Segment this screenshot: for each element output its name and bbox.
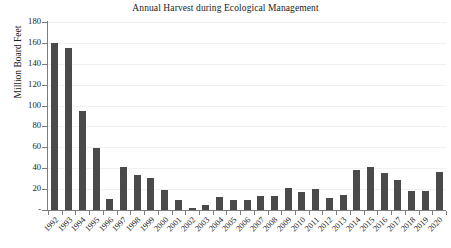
y-tick-mark xyxy=(42,126,48,127)
y-tick-mark xyxy=(42,85,48,86)
x-tick-mark xyxy=(432,211,433,215)
x-tick-mark xyxy=(322,211,323,215)
x-tick-mark xyxy=(446,211,447,215)
y-tick-mark xyxy=(42,43,48,44)
x-tick-mark xyxy=(268,211,269,215)
x-tick-mark xyxy=(295,211,296,215)
x-tick-label: 2020 xyxy=(427,216,445,234)
x-tick-mark xyxy=(364,211,365,215)
y-tick-mark xyxy=(42,106,48,107)
x-tick-mark xyxy=(48,211,49,215)
x-tick-mark xyxy=(377,211,378,215)
y-tick-mark xyxy=(42,168,48,169)
x-tick-mark xyxy=(158,211,159,215)
x-tick-mark xyxy=(391,211,392,215)
x-tick-mark xyxy=(185,211,186,215)
x-tick-mark xyxy=(254,211,255,215)
x-tick-mark xyxy=(117,211,118,215)
x-tick-mark xyxy=(130,211,131,215)
x-tick-mark xyxy=(62,211,63,215)
x-tick-mark xyxy=(103,211,104,215)
x-tick-mark xyxy=(281,211,282,215)
y-tick-mark xyxy=(42,147,48,148)
x-tick-mark xyxy=(309,211,310,215)
x-tick-mark xyxy=(240,211,241,215)
chart-figure: Annual Harvest during Ecological Managem… xyxy=(0,0,451,248)
x-tick-mark xyxy=(405,211,406,215)
x-tick-mark xyxy=(172,211,173,215)
y-tick-mark xyxy=(42,189,48,190)
x-tick-mark xyxy=(336,211,337,215)
y-tick-mark xyxy=(42,22,48,23)
x-tick-mark xyxy=(350,211,351,215)
y-tick-mark xyxy=(42,64,48,65)
x-tick-mark xyxy=(144,211,145,215)
x-tick-mark xyxy=(213,211,214,215)
x-tick-mark xyxy=(419,211,420,215)
x-tick-mark xyxy=(199,211,200,215)
x-tick-mark xyxy=(226,211,227,215)
x-tick-mark xyxy=(75,211,76,215)
x-tick-mark xyxy=(89,211,90,215)
